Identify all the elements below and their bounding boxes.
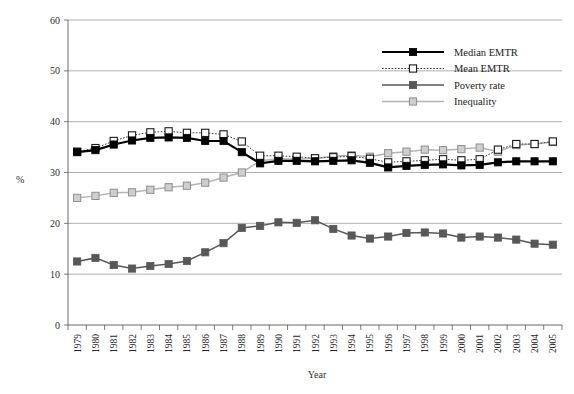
- x-tick-label: 1988: [237, 334, 247, 353]
- y-tick-label: 50: [50, 65, 60, 76]
- data-point: [275, 157, 282, 164]
- data-point: [293, 157, 300, 164]
- data-point: [110, 189, 117, 196]
- x-tick-label: 2002: [493, 334, 503, 353]
- data-point: [147, 134, 154, 141]
- data-point: [458, 146, 465, 153]
- data-point: [348, 157, 355, 164]
- x-axis-title: Year: [308, 369, 327, 380]
- x-tick-label: 2000: [457, 334, 467, 353]
- data-point: [220, 137, 227, 144]
- legend-marker-swatch: [409, 65, 416, 72]
- data-point: [403, 148, 410, 155]
- data-point: [439, 230, 446, 237]
- legend-marker-swatch: [409, 98, 416, 105]
- data-point: [128, 189, 135, 196]
- data-point: [110, 141, 117, 148]
- data-point: [183, 182, 190, 189]
- data-point: [421, 146, 428, 153]
- data-point: [238, 224, 245, 231]
- x-tick-label: 1985: [182, 334, 192, 353]
- data-point: [549, 241, 556, 248]
- data-point: [494, 146, 501, 153]
- data-point: [275, 219, 282, 226]
- data-point: [385, 233, 392, 240]
- data-point: [165, 184, 172, 191]
- data-point: [92, 147, 99, 154]
- data-point: [202, 137, 209, 144]
- data-point: [128, 137, 135, 144]
- x-tick-label: 2004: [530, 334, 540, 353]
- data-point: [202, 249, 209, 256]
- data-point: [421, 229, 428, 236]
- x-tick-label: 1989: [256, 334, 266, 353]
- x-tick-label: 1992: [311, 334, 321, 353]
- legend-label: Median EMTR: [454, 47, 518, 58]
- x-tick-label: 1994: [347, 334, 357, 353]
- y-tick-label: 10: [50, 269, 60, 280]
- data-point: [183, 257, 190, 264]
- data-point: [74, 258, 81, 265]
- data-point: [147, 186, 154, 193]
- x-tick-label: 1996: [384, 334, 394, 353]
- data-point: [513, 158, 520, 165]
- data-point: [476, 144, 483, 151]
- x-tick-label: 1987: [219, 334, 229, 353]
- legend-marker-swatch: [409, 48, 416, 55]
- x-tick-label: 1986: [201, 334, 211, 353]
- data-point: [476, 233, 483, 240]
- data-point: [549, 158, 556, 165]
- data-point: [147, 262, 154, 269]
- data-point: [513, 236, 520, 243]
- data-point: [439, 161, 446, 168]
- chart-figure: 0102030405060 19791980198119821983198419…: [0, 0, 574, 394]
- data-point: [165, 134, 172, 141]
- data-point: [330, 157, 337, 164]
- data-point: [128, 265, 135, 272]
- y-tick-label: 20: [50, 218, 60, 229]
- x-tick-label: 1983: [146, 334, 156, 353]
- x-tick-label: 2005: [548, 334, 558, 353]
- data-point: [220, 131, 227, 138]
- x-tick-label: 2003: [512, 334, 522, 353]
- data-point: [439, 147, 446, 154]
- data-point: [348, 232, 355, 239]
- data-point: [549, 138, 556, 145]
- data-point: [311, 217, 318, 224]
- data-point: [74, 149, 81, 156]
- x-tick-label: 1990: [274, 334, 284, 353]
- data-point: [513, 140, 520, 147]
- data-point: [165, 260, 172, 267]
- y-axis-title: %: [16, 174, 24, 185]
- data-point: [92, 254, 99, 261]
- data-point: [403, 162, 410, 169]
- data-point: [403, 229, 410, 236]
- line-chart-canvas: 0102030405060 19791980198119821983198419…: [0, 0, 574, 394]
- data-point: [238, 149, 245, 156]
- x-tick-label: 1997: [402, 334, 412, 353]
- x-tick-label: 1982: [128, 334, 138, 353]
- data-point: [238, 169, 245, 176]
- data-point: [458, 234, 465, 241]
- data-point: [421, 161, 428, 168]
- data-point: [257, 152, 264, 159]
- data-point: [202, 129, 209, 136]
- data-point: [311, 158, 318, 165]
- x-tick-label: 1998: [420, 334, 430, 353]
- y-tick-label: 30: [50, 167, 60, 178]
- data-point: [385, 150, 392, 157]
- x-tick-label: 1981: [109, 334, 119, 353]
- x-tick-label: 1995: [365, 334, 375, 353]
- data-point: [74, 194, 81, 201]
- legend-marker-swatch: [409, 81, 416, 88]
- data-point: [220, 174, 227, 181]
- data-point: [110, 261, 117, 268]
- legend-label: Poverty rate: [454, 80, 505, 91]
- legend-label: Mean EMTR: [454, 63, 510, 74]
- x-tick-label: 1993: [329, 334, 339, 353]
- data-point: [293, 219, 300, 226]
- legend-label: Inequality: [454, 96, 497, 107]
- data-point: [494, 159, 501, 166]
- data-point: [531, 240, 538, 247]
- data-point: [330, 225, 337, 232]
